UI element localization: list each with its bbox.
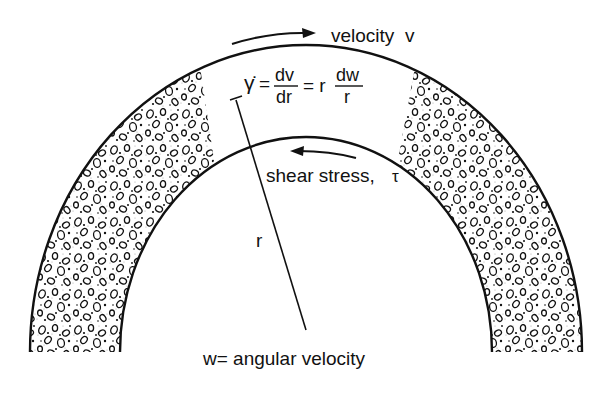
velocity-arrowhead-icon xyxy=(302,28,316,38)
angular-velocity-label: w= angular velocity xyxy=(202,348,366,369)
equals-r: = r xyxy=(303,75,326,96)
radius-label: r xyxy=(256,230,263,251)
fraction2-numerator: dw xyxy=(336,65,360,85)
shear-rate-equation: γ̇ = dv dr = r dw r xyxy=(244,65,363,107)
velocity-label: velocity v xyxy=(331,25,415,46)
tau-symbol: τ xyxy=(392,167,399,186)
fraction1-numerator: dv xyxy=(275,65,294,85)
shear-stress-arrowhead-icon xyxy=(290,146,304,156)
shear-annulus-diagram: velocity v γ̇ = dv dr = r dw r shear str… xyxy=(0,0,614,393)
equals-sign-1: = xyxy=(259,73,270,94)
velocity-arrow xyxy=(232,33,308,44)
granular-region-left xyxy=(0,40,214,393)
radius-end-tick xyxy=(230,96,242,100)
gamma-dot-symbol: γ̇ xyxy=(244,71,256,94)
shear-stress-arrow xyxy=(298,151,356,158)
fraction1-denominator: dr xyxy=(276,87,292,107)
fraction2-denominator: r xyxy=(344,87,350,107)
radius-line xyxy=(236,100,306,330)
shear-stress-label: shear stress, xyxy=(266,165,375,186)
